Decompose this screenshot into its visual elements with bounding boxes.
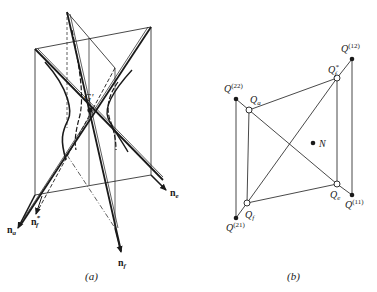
line-qfstar-q12 — [337, 59, 352, 78]
hyperbola-left-branch — [45, 62, 70, 160]
label-q22: Q(22) — [224, 82, 244, 94]
label-n-e: ne — [170, 187, 179, 200]
line-qa-qfstar — [249, 78, 337, 110]
label-n-a: na — [7, 224, 17, 237]
point-q22 — [234, 97, 239, 102]
vector-n-e-arrow — [151, 175, 166, 190]
point-qe — [334, 181, 340, 187]
hyperbola-right-branch — [107, 70, 132, 152]
asymptote-e-a — [20, 27, 151, 226]
point-g — [87, 107, 92, 112]
asymptote-a-e — [35, 49, 163, 180]
label-q12: Q(12) — [341, 42, 361, 54]
line-qf-qe — [247, 184, 337, 203]
label-qf: Qf — [245, 209, 255, 222]
plane-top-edge — [35, 27, 151, 49]
label-q11: Q(11) — [345, 198, 364, 210]
point-qa — [246, 107, 252, 113]
point-n — [311, 141, 316, 146]
label-q21: Q(21) — [226, 221, 246, 233]
point-q21 — [234, 216, 239, 221]
asymptote-f-inner — [70, 14, 118, 228]
vector-n-f-arrow — [115, 228, 121, 252]
label-n: N — [318, 138, 327, 149]
label-n-f-star: n*f — [31, 214, 41, 229]
panel-a-diagram — [18, 12, 166, 252]
point-q11 — [350, 193, 355, 198]
label-g-prime: G' — [84, 92, 94, 103]
caption-b: (b) — [287, 270, 300, 283]
point-qf — [244, 200, 250, 206]
hyperbola-right-dashed — [108, 82, 118, 150]
figure-canvas: G' na n*f nf ne (a) Q — [0, 0, 377, 292]
label-qa: Qa — [250, 94, 261, 107]
point-q12 — [350, 57, 355, 62]
label-n-f: nf — [118, 257, 127, 270]
line-qa-qf — [247, 110, 249, 203]
caption-a: (a) — [85, 270, 98, 283]
label-qe: Qe — [330, 189, 340, 202]
